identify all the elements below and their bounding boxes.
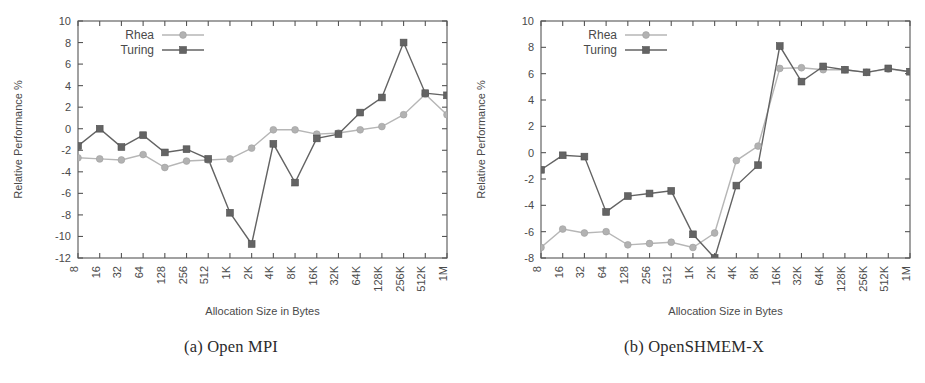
- y-tick-label: -2: [524, 173, 534, 185]
- data-point-rhea: [668, 239, 675, 246]
- data-point-rhea: [227, 155, 234, 162]
- series-group: [75, 39, 451, 247]
- x-tick-label: 32: [111, 266, 123, 278]
- series-group: [538, 43, 914, 262]
- data-point-turing: [820, 63, 827, 70]
- x-tick-label: 256: [177, 266, 189, 284]
- panel-caption-a: (a) Open MPI: [0, 337, 462, 357]
- x-tick-label: 32K: [791, 265, 803, 285]
- x-tick-label: 1M: [437, 266, 449, 281]
- data-point-turing: [624, 193, 631, 200]
- data-point-rhea: [444, 111, 451, 118]
- data-point-turing: [183, 146, 190, 153]
- y-tick-label: -8: [61, 209, 71, 221]
- data-point-turing: [378, 94, 385, 101]
- y-tick-label: 6: [528, 68, 534, 80]
- x-tick-label: 1K: [220, 265, 232, 279]
- x-tick-label: 4K: [726, 265, 738, 279]
- legend-label-rhea: Rhea: [588, 28, 617, 42]
- y-tick-label: -8: [524, 252, 534, 264]
- data-point-turing: [96, 125, 103, 132]
- data-point-turing: [538, 166, 545, 173]
- data-point-turing: [357, 109, 364, 116]
- y-tick-label: 2: [528, 120, 534, 132]
- x-tick-label: 128: [618, 266, 630, 284]
- x-tick-label: 32K: [328, 265, 340, 285]
- data-point-turing: [581, 153, 588, 160]
- chart-svg-open-mpi: -12-10-8-6-4-2024681081632641282565121K2…: [0, 0, 462, 330]
- y-tick-label: 2: [65, 101, 71, 113]
- data-point-turing: [313, 135, 320, 142]
- data-point-rhea: [183, 158, 190, 165]
- x-tick-label: 32: [574, 266, 586, 278]
- data-point-turing: [400, 39, 407, 46]
- data-point-rhea: [378, 123, 385, 130]
- legend-label-rhea: Rhea: [125, 28, 154, 42]
- data-point-rhea: [603, 228, 610, 235]
- data-point-turing: [422, 90, 429, 97]
- x-tick-label: 512K: [415, 265, 427, 291]
- y-tick-label: -4: [524, 199, 534, 211]
- legend-marker-rhea: [180, 32, 187, 39]
- x-tick-label: 8: [531, 266, 543, 272]
- y-tick-label: 0: [528, 147, 534, 159]
- y-tick-label: 10: [59, 15, 71, 27]
- legend-marker-rhea: [643, 32, 650, 39]
- data-point-rhea: [292, 126, 299, 133]
- data-point-rhea: [400, 111, 407, 118]
- data-point-rhea: [559, 226, 566, 233]
- data-point-turing: [690, 231, 697, 238]
- y-tick-label: 6: [65, 58, 71, 70]
- x-tick-label: 1M: [900, 266, 912, 281]
- data-point-turing: [668, 187, 675, 194]
- chart-panel-openshmem-x: -8-6-4-2024681081632641282565121K2K4K8K1…: [463, 0, 925, 383]
- data-point-turing: [270, 140, 277, 147]
- x-tick-label: 2K: [242, 265, 254, 279]
- data-point-turing: [603, 209, 610, 216]
- x-axis-title: Allocation Size in Bytes: [668, 305, 783, 317]
- series-line-turing: [78, 43, 447, 244]
- series-line-rhea: [78, 94, 447, 167]
- x-tick-label: 512K: [878, 265, 890, 291]
- data-point-rhea: [776, 65, 783, 72]
- chart-svg-openshmem-x: -8-6-4-2024681081632641282565121K2K4K8K1…: [463, 0, 925, 330]
- data-point-rhea: [798, 64, 805, 71]
- x-tick-label: 2K: [705, 265, 717, 279]
- x-axis-title: Allocation Size in Bytes: [205, 305, 320, 317]
- x-tick-label: 256K: [394, 265, 406, 291]
- data-point-turing: [75, 143, 82, 150]
- chart-panel-open-mpi: -12-10-8-6-4-2024681081632641282565121K2…: [0, 0, 462, 383]
- data-point-turing: [161, 149, 168, 156]
- y-tick-label: 8: [65, 37, 71, 49]
- data-point-turing: [335, 131, 342, 138]
- y-tick-label: 4: [528, 94, 534, 106]
- y-tick-label: 8: [528, 41, 534, 53]
- data-point-rhea: [711, 230, 718, 237]
- x-tick-label: 8K: [285, 265, 297, 279]
- data-point-rhea: [755, 143, 762, 150]
- data-point-turing: [755, 162, 762, 169]
- x-tick-label: 16: [553, 266, 565, 278]
- y-axis-title: Relative Performance %: [475, 80, 487, 199]
- data-point-rhea: [161, 164, 168, 171]
- x-tick-label: 128: [155, 266, 167, 284]
- panel-caption-b: (b) OpenSHMEM-X: [463, 337, 925, 357]
- data-point-rhea: [270, 126, 277, 133]
- x-tick-label: 64: [133, 266, 145, 278]
- data-point-turing: [227, 209, 234, 216]
- data-point-rhea: [248, 145, 255, 152]
- y-tick-label: -6: [61, 187, 71, 199]
- data-point-rhea: [357, 126, 364, 133]
- data-point-turing: [885, 65, 892, 72]
- data-point-rhea: [96, 155, 103, 162]
- x-tick-label: 64K: [813, 265, 825, 285]
- figure-container: -12-10-8-6-4-2024681081632641282565121K2…: [0, 0, 925, 383]
- y-tick-label: -4: [61, 166, 71, 178]
- x-tick-label: 256K: [857, 265, 869, 291]
- legend-marker-turing: [643, 47, 650, 54]
- y-tick-label: 4: [65, 80, 71, 92]
- data-point-turing: [140, 132, 147, 139]
- y-tick-label: -10: [55, 230, 71, 242]
- data-point-rhea: [646, 240, 653, 247]
- y-tick-label: -6: [524, 226, 534, 238]
